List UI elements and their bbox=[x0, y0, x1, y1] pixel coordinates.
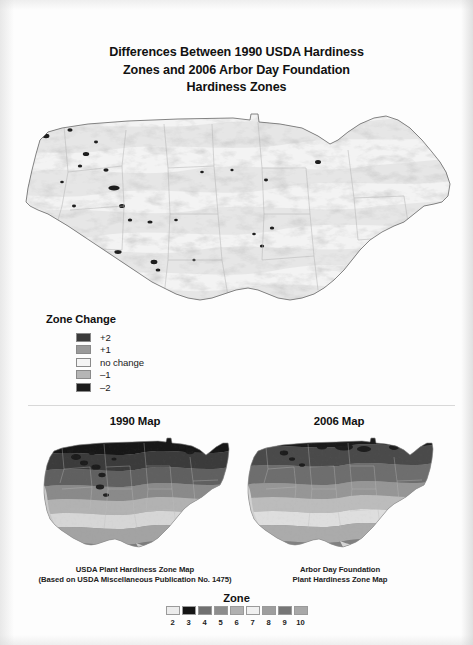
zone-cell-2: 2 bbox=[166, 606, 180, 627]
zone-cell-10: 10 bbox=[294, 606, 308, 627]
legend-label-minus1: –1 bbox=[100, 369, 110, 380]
zone-number-6: 6 bbox=[234, 618, 238, 627]
page-title: Differences Between 1990 USDA Hardiness … bbox=[0, 44, 473, 97]
caption-1990-line-1: USDA Plant Hardiness Zone Map bbox=[22, 565, 248, 575]
zone-cell-7: 7 bbox=[246, 606, 260, 627]
zone-number-8: 8 bbox=[266, 618, 270, 627]
zone-number-2: 2 bbox=[170, 618, 174, 627]
map-2006-graphic bbox=[244, 437, 434, 557]
zone-change-map bbox=[18, 110, 458, 310]
legend-item-plus2: +2 bbox=[76, 331, 206, 344]
legend-item-no-change: no change bbox=[76, 356, 206, 369]
legend-swatch-minus1 bbox=[76, 370, 91, 379]
zone-number-3: 3 bbox=[186, 618, 190, 627]
section-divider bbox=[28, 405, 455, 406]
zone-number-7: 7 bbox=[250, 618, 254, 627]
zone-chip-7 bbox=[246, 606, 260, 615]
zone-number-5: 5 bbox=[218, 618, 222, 627]
zone-cell-8: 8 bbox=[262, 606, 276, 627]
legend-title: Zone Change bbox=[46, 313, 206, 325]
zone-cell-9: 9 bbox=[278, 606, 292, 627]
legend-swatch-minus2 bbox=[76, 383, 91, 392]
caption-2006-line-2: Plant Hardiness Zone Map bbox=[250, 575, 430, 585]
legend-item-minus2: –2 bbox=[76, 381, 206, 394]
legend-label-plus1: +1 bbox=[100, 344, 111, 355]
zone-number-9: 9 bbox=[282, 618, 286, 627]
zone-number-4: 4 bbox=[202, 618, 206, 627]
caption-1990: USDA Plant Hardiness Zone Map (Based on … bbox=[22, 565, 248, 585]
legend-swatch-no-change bbox=[76, 358, 91, 367]
title-line-3: Hardiness Zones bbox=[0, 79, 473, 97]
zone-chip-3 bbox=[182, 606, 196, 615]
zone-chip-8 bbox=[262, 606, 276, 615]
zone-number-10: 10 bbox=[296, 618, 304, 627]
legend-item-plus1: +1 bbox=[76, 344, 206, 357]
title-line-2: Zones and 2006 Arbor Day Foundation bbox=[0, 62, 473, 80]
caption-1990-line-2: (Based on USDA Miscellaneous Publication… bbox=[22, 575, 248, 585]
zone-cell-6: 6 bbox=[230, 606, 244, 627]
zone-change-legend: Zone Change +2 +1 no change –1 –2 bbox=[46, 313, 206, 394]
legend-swatch-plus2 bbox=[76, 333, 91, 342]
legend-item-minus1: –1 bbox=[76, 369, 206, 382]
zone-chip-4 bbox=[198, 606, 212, 615]
zone-cell-4: 4 bbox=[198, 606, 212, 627]
caption-2006-line-1: Arbor Day Foundation bbox=[250, 565, 430, 575]
figure-page: Differences Between 1990 USDA Hardiness … bbox=[0, 0, 473, 645]
legend-label-plus2: +2 bbox=[100, 332, 111, 343]
zone-chip-6 bbox=[230, 606, 244, 615]
legend-swatch-plus1 bbox=[76, 345, 91, 354]
map-1990 bbox=[40, 437, 230, 557]
zone-scale-title: Zone bbox=[0, 592, 473, 604]
zone-chip-9 bbox=[278, 606, 292, 615]
zone-chip-5 bbox=[214, 606, 228, 615]
panel-title-2006: 2006 Map bbox=[244, 415, 434, 427]
caption-2006: Arbor Day Foundation Plant Hardiness Zon… bbox=[250, 565, 430, 585]
legend-label-minus2: –2 bbox=[100, 382, 110, 393]
zone-chip-10 bbox=[294, 606, 308, 615]
map-2006 bbox=[244, 437, 434, 557]
zone-change-map-graphic bbox=[18, 110, 458, 310]
zone-cell-5: 5 bbox=[214, 606, 228, 627]
zone-scale-legend: 2 3 4 5 6 7 8 9 bbox=[0, 606, 473, 627]
title-line-1: Differences Between 1990 USDA Hardiness bbox=[0, 44, 473, 62]
legend-label-no-change: no change bbox=[100, 357, 144, 368]
zone-cell-3: 3 bbox=[182, 606, 196, 627]
panel-title-1990: 1990 Map bbox=[40, 415, 230, 427]
map-1990-graphic bbox=[40, 437, 230, 557]
zone-chip-2 bbox=[166, 606, 180, 615]
